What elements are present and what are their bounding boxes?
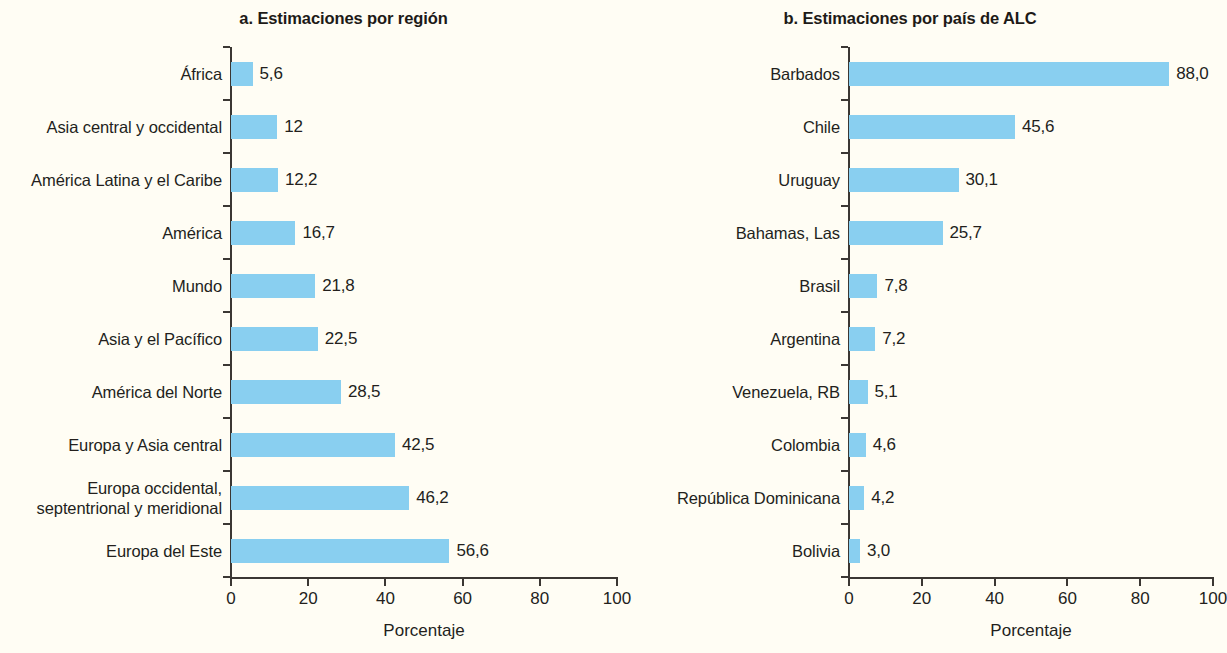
bar-row: Bahamas, Las25,7	[625, 206, 1225, 259]
bar-value-label: 30,1	[966, 170, 998, 190]
x-axis-tick-label: 0	[226, 589, 235, 609]
bar	[849, 486, 864, 510]
bar-value-label: 22,5	[325, 329, 357, 349]
bar-row: África5,6	[0, 47, 625, 100]
bar	[231, 486, 409, 510]
bar-row: Mundo21,8	[0, 259, 625, 312]
category-label: Colombia	[625, 435, 840, 455]
bar-row: Asia central y occidental12	[0, 100, 625, 153]
bar-row: Europa occidental, septentrional y merid…	[0, 471, 625, 524]
x-axis-tick	[462, 579, 464, 586]
category-label: América	[0, 223, 222, 243]
bar-value-label: 12	[284, 117, 303, 137]
category-label: Europa del Este	[0, 541, 222, 561]
x-axis-tick	[616, 579, 618, 586]
bar-value-label: 5,6	[260, 64, 283, 84]
x-axis-tick	[307, 579, 309, 586]
bar-value-label: 42,5	[402, 435, 434, 455]
bar-row: Venezuela, RB5,1	[625, 365, 1225, 418]
bar	[231, 539, 449, 563]
bar	[231, 115, 277, 139]
bar	[849, 168, 959, 192]
x-axis-tick-label: 20	[912, 589, 931, 609]
bar	[231, 168, 278, 192]
x-axis-tick	[1212, 579, 1214, 586]
x-axis-tick	[848, 579, 850, 586]
bar-row: Colombia4,6	[625, 418, 1225, 471]
bar-row: América16,7	[0, 206, 625, 259]
bar	[849, 115, 1015, 139]
category-label: Venezuela, RB	[625, 382, 840, 402]
bar-value-label: 21,8	[322, 276, 354, 296]
x-axis-line	[848, 577, 1214, 579]
category-label: República Dominicana	[625, 488, 840, 508]
x-axis-tick-label: 40	[985, 589, 1004, 609]
category-label: Bahamas, Las	[625, 223, 840, 243]
bar-value-label: 3,0	[867, 541, 890, 561]
bar	[231, 62, 253, 86]
panel-a-title: a. Estimaciones por región	[0, 9, 625, 28]
x-axis-tick	[1139, 579, 1141, 586]
panel-a-estimaciones-por-region: a. Estimaciones por región África5,6Asia…	[0, 0, 625, 653]
bar-value-label: 4,6	[873, 435, 896, 455]
category-label: Chile	[625, 117, 840, 137]
x-axis-tick	[230, 579, 232, 586]
x-axis-tick-label: 60	[453, 589, 472, 609]
x-axis-tick-label: 60	[1058, 589, 1077, 609]
bar-row: América Latina y el Caribe12,2	[0, 153, 625, 206]
bar-value-label: 45,6	[1022, 117, 1054, 137]
category-label: Bolivia	[625, 541, 840, 561]
bar-value-label: 7,2	[882, 329, 905, 349]
bar	[849, 221, 943, 245]
category-label: América del Norte	[0, 382, 222, 402]
category-label: América Latina y el Caribe	[0, 170, 222, 190]
x-axis-tick	[384, 579, 386, 586]
bar	[849, 433, 866, 457]
bar-row: Europa y Asia central42,5	[0, 418, 625, 471]
category-label: Uruguay	[625, 170, 840, 190]
bar-row: Brasil7,8	[625, 259, 1225, 312]
x-axis-caption: Porcentaje	[990, 621, 1071, 641]
bar-row: Europa del Este56,6	[0, 524, 625, 577]
bar	[849, 380, 868, 404]
bar-value-label: 28,5	[348, 382, 380, 402]
category-label: Argentina	[625, 329, 840, 349]
x-axis-tick-label: 20	[299, 589, 318, 609]
category-label: Brasil	[625, 276, 840, 296]
x-axis-tick-label: 100	[1199, 589, 1227, 609]
bar-row: Barbados88,0	[625, 47, 1225, 100]
x-axis-tick-label: 80	[1131, 589, 1150, 609]
category-label: Europa y Asia central	[0, 435, 222, 455]
category-label: Asia central y occidental	[0, 117, 222, 137]
bar-value-label: 16,7	[302, 223, 334, 243]
bar-row: Chile45,6	[625, 100, 1225, 153]
category-label: Barbados	[625, 64, 840, 84]
bar	[849, 327, 875, 351]
bar-value-label: 88,0	[1176, 64, 1208, 84]
bar	[849, 539, 860, 563]
bar-row: Uruguay30,1	[625, 153, 1225, 206]
bar-value-label: 46,2	[416, 488, 448, 508]
bar	[849, 274, 877, 298]
panel-b-estimaciones-por-pais-alc: b. Estimaciones por país de ALC Barbados…	[625, 0, 1225, 653]
x-axis-tick-label: 0	[844, 589, 853, 609]
bar-value-label: 7,8	[884, 276, 907, 296]
bar	[231, 327, 318, 351]
bar	[231, 433, 395, 457]
panel-b-title: b. Estimaciones por país de ALC	[625, 9, 1225, 28]
bar	[849, 62, 1169, 86]
x-axis-tick	[994, 579, 996, 586]
x-axis-tick-label: 40	[376, 589, 395, 609]
category-label: Asia y el Pacífico	[0, 329, 222, 349]
bar-row: América del Norte28,5	[0, 365, 625, 418]
bar-row: República Dominicana4,2	[625, 471, 1225, 524]
bar-value-label: 12,2	[285, 170, 317, 190]
x-axis-line	[230, 577, 618, 579]
x-axis-caption: Porcentaje	[383, 621, 464, 641]
x-axis-tick	[1066, 579, 1068, 586]
category-label: Mundo	[0, 276, 222, 296]
bar-row: Argentina7,2	[625, 312, 1225, 365]
bar-value-label: 4,2	[871, 488, 894, 508]
category-label: África	[0, 64, 222, 84]
